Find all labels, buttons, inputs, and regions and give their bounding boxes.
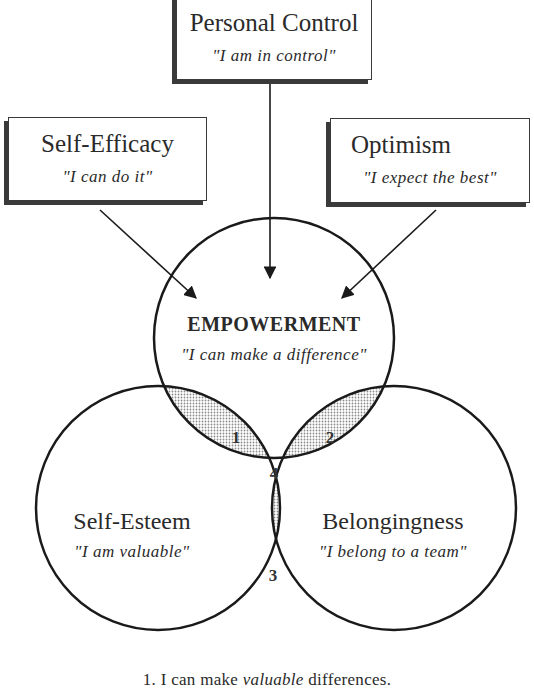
personal-control-quote: "I am in control" — [177, 45, 371, 67]
arrow-self-efficacy — [100, 210, 196, 298]
belongingness-label: Belongingness "I belong to a team" — [308, 507, 478, 563]
optimism-quote: "I expect the best" — [331, 167, 529, 189]
caption: 1. I can make valuable differences. — [0, 670, 534, 690]
personal-control-title: Personal Control — [177, 9, 371, 37]
region-2-number: 2 — [320, 428, 340, 448]
arrow-optimism — [342, 210, 436, 298]
belongingness-title: Belongingness — [308, 507, 478, 535]
optimism-title: Optimism — [331, 131, 529, 159]
region-3-number: 3 — [263, 566, 283, 586]
optimism-box: Optimism "I expect the best" — [330, 118, 530, 203]
empowerment-quote: "I can make a difference" — [164, 344, 384, 366]
empowerment-label: EMPOWERMENT "I can make a difference" — [164, 310, 384, 366]
empowerment-title: EMPOWERMENT — [164, 310, 384, 338]
self-esteem-label: Self-Esteem "I am valuable" — [52, 507, 212, 563]
self-efficacy-quote: "I can do it" — [9, 166, 206, 188]
caption-before: I can make — [161, 670, 243, 689]
region-4-number: 4 — [264, 464, 284, 484]
caption-number: 1. — [143, 670, 156, 689]
belongingness-quote: "I belong to a team" — [308, 541, 478, 563]
self-efficacy-box: Self-Efficacy "I can do it" — [8, 117, 207, 201]
self-esteem-title: Self-Esteem — [52, 507, 212, 535]
personal-control-box: Personal Control "I am in control" — [176, 0, 372, 80]
region-1-number: 1 — [226, 428, 246, 448]
self-esteem-quote: "I am valuable" — [52, 541, 212, 563]
self-efficacy-title: Self-Efficacy — [9, 130, 206, 158]
caption-after: differences. — [304, 670, 392, 689]
caption-emphasis: valuable — [243, 670, 304, 689]
